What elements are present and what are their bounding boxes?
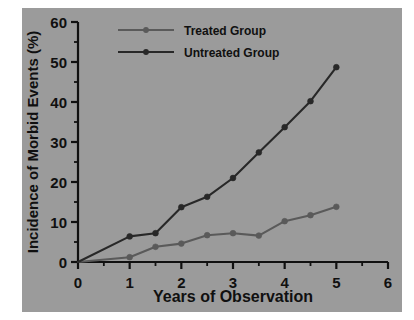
data-point-marker — [333, 64, 339, 70]
legend-swatch-marker — [143, 49, 149, 55]
data-point-marker — [282, 124, 288, 130]
y-tick-label: 50 — [50, 54, 67, 71]
data-point-marker — [204, 194, 210, 200]
legend-entry-label: Untreated Group — [184, 46, 279, 60]
y-tick-label: 0 — [59, 254, 67, 271]
data-point-marker — [230, 175, 236, 181]
x-axis-title: Years of Observation — [153, 288, 313, 305]
data-point-marker — [308, 212, 314, 218]
data-point-marker — [127, 254, 133, 260]
data-point-marker — [204, 232, 210, 238]
data-point-marker — [308, 98, 314, 104]
data-point-marker — [127, 234, 133, 240]
y-tick-label: 40 — [50, 94, 67, 111]
x-tick-label: 1 — [125, 274, 133, 291]
data-point-marker — [256, 150, 262, 156]
data-point-marker — [256, 233, 262, 239]
data-point-marker — [153, 230, 159, 236]
data-series-layer — [78, 64, 339, 262]
data-point-marker — [282, 218, 288, 224]
x-tick-label: 0 — [74, 274, 82, 291]
line-chart: 0102030405060 0123456 Treated GroupUntre… — [0, 0, 414, 320]
legend-entry-label: Treated Group — [184, 24, 266, 38]
data-point-marker — [333, 204, 339, 210]
y-tick-label: 20 — [50, 174, 67, 191]
series-1 — [78, 204, 339, 262]
x-tick-label: 5 — [332, 274, 340, 291]
data-point-marker — [230, 230, 236, 236]
chart-legend: Treated GroupUntreated Group — [118, 24, 279, 60]
data-point-marker — [178, 241, 184, 247]
legend-swatch-marker — [143, 27, 149, 33]
figure-canvas: 0102030405060 0123456 Treated GroupUntre… — [0, 0, 414, 320]
y-tick-label: 60 — [50, 14, 67, 31]
y-axis-tick-labels: 0102030405060 — [50, 14, 67, 271]
y-axis-title: Incidence of Morbid Events (%) — [24, 31, 41, 254]
x-tick-label: 6 — [384, 274, 392, 291]
y-tick-label: 30 — [50, 134, 67, 151]
y-tick-label: 10 — [50, 214, 67, 231]
data-point-marker — [178, 204, 184, 210]
data-point-marker — [153, 244, 159, 250]
legend-entry-1: Treated Group — [118, 24, 266, 38]
legend-entry-2: Untreated Group — [118, 46, 279, 60]
series-2 — [78, 64, 339, 262]
